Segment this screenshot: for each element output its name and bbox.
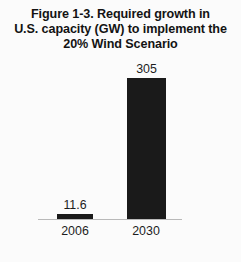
chart-title-line-2: U.S. capacity (GW) to implement the xyxy=(4,22,237,37)
chart-title-line-3: 20% Wind Scenario xyxy=(4,37,237,52)
bar-group: 305 xyxy=(127,63,166,219)
chart-title: Figure 1-3. Required growth in U.S. capa… xyxy=(4,7,237,53)
bar-value-label: 305 xyxy=(136,63,157,76)
x-axis-tick-labels: 2006 2030 xyxy=(0,224,241,242)
chart-title-line-1: Figure 1-3. Required growth in xyxy=(4,7,237,22)
bar xyxy=(127,78,166,219)
x-axis-tick-label: 2030 xyxy=(118,224,174,239)
bar-group: 11.6 xyxy=(57,199,93,219)
x-axis-tick-label: 2006 xyxy=(47,224,103,239)
bar xyxy=(57,214,93,219)
figure-container: Figure 1-3. Required growth in U.S. capa… xyxy=(0,0,241,262)
plot-area: 11.6 305 xyxy=(0,55,241,220)
bar-value-label: 11.6 xyxy=(63,199,86,212)
